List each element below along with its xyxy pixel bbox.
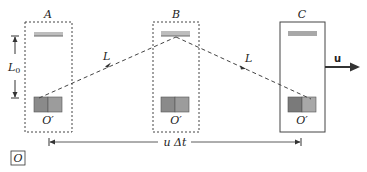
clock-a-label: O′ xyxy=(42,114,54,127)
frame-a-label: A xyxy=(43,8,52,21)
path-label-left: L xyxy=(102,50,110,63)
mirror-a xyxy=(34,32,63,36)
mirror-b xyxy=(161,31,190,36)
clock-a xyxy=(34,97,62,112)
path-label-right: L xyxy=(244,52,252,65)
height-label: L0 xyxy=(7,61,20,75)
clock-c-label: O′ xyxy=(296,114,308,127)
clock-c xyxy=(288,97,316,112)
mirror-c xyxy=(288,31,317,36)
frame-b: B O′ xyxy=(153,8,199,132)
displacement-dimension: u Δt xyxy=(49,136,301,149)
clock-b xyxy=(161,97,189,112)
displacement-label: u Δt xyxy=(164,136,188,149)
light-path: L L xyxy=(39,37,311,99)
velocity-label: u xyxy=(334,53,341,64)
velocity-arrow: u xyxy=(325,53,360,72)
frame-a: A O′ xyxy=(25,8,72,132)
frame-c: C O′ xyxy=(280,8,325,132)
arrowhead-up-icon xyxy=(105,63,111,68)
observer-frame: O xyxy=(11,151,25,165)
arrow-right-icon xyxy=(350,63,360,72)
clock-b-label: O′ xyxy=(170,114,182,127)
frame-c-label: C xyxy=(298,8,307,21)
light-clock-diagram: L0 A O′ B O′ C O′ xyxy=(0,0,367,172)
observer-label: O xyxy=(13,152,22,165)
height-dimension: L0 xyxy=(7,36,20,98)
frame-b-label: B xyxy=(171,8,180,21)
arrowhead-down-icon xyxy=(240,66,246,70)
